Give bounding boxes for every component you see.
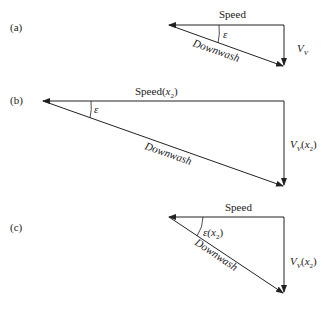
downwash-label-a: Downwash [190, 36, 242, 64]
angle-label-b: ε [94, 103, 99, 115]
panel-label-b: (b) [10, 94, 23, 107]
angle-label-a: ε [223, 28, 228, 40]
diagram-c: (c) Speed ε(x2) Downwash VV(x2) [10, 201, 317, 293]
angle-arc-a [218, 25, 219, 43]
angle-arc-b [90, 101, 91, 118]
speed-label-b: Speed(x2) [135, 85, 178, 100]
vertical-label-a: VV [297, 42, 309, 57]
angle-label-c: ε(x2) [203, 226, 223, 241]
diagram-b: (b) Speed(x2) ε Downwash VV(x2) [10, 85, 317, 186]
speed-label-c: Speed [225, 201, 252, 213]
diagram-a: (a) Speed ε Downwash VV [10, 8, 309, 66]
vertical-label-b: VV(x2) [290, 138, 317, 153]
downwash-label-b: Downwash [142, 139, 194, 167]
velocity-triangle-diagrams: (a) Speed ε Downwash VV (b) Speed(x2) ε … [0, 0, 332, 310]
speed-label-a: Speed [219, 8, 246, 20]
downwash-arrow-b [43, 101, 283, 186]
panel-label-a: (a) [10, 21, 23, 34]
vertical-label-c: VV(x2) [290, 255, 317, 270]
panel-label-c: (c) [10, 221, 23, 234]
